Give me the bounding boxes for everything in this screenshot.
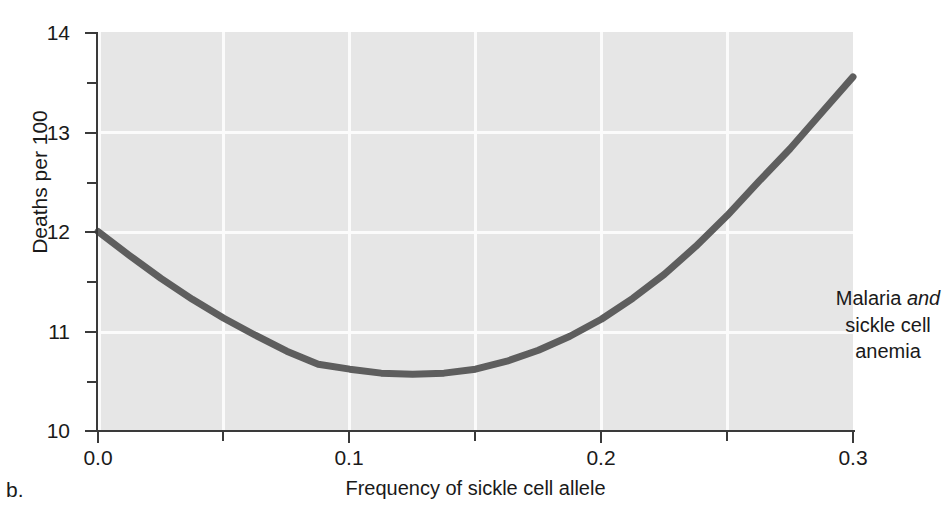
y-axis-line [96,32,98,432]
x-tick-0.0 [97,432,99,443]
x-tick-0.25 [726,432,728,441]
x-tick-0.3 [852,432,854,443]
x-axis-title: Frequency of sickle cell allele [98,477,853,500]
y-tick-13.5 [87,82,96,84]
y-tick-14 [85,32,96,34]
figure-letter: b. [6,478,24,502]
y-tick-11 [85,331,96,333]
x-ticklabel-0.3: 0.3 [813,447,893,468]
annotation-line2: sickle cell [845,314,931,336]
x-tick-0.1 [348,432,350,443]
y-axis-title: Deaths per 100 [28,62,52,302]
x-ticklabel-0.1: 0.1 [309,447,389,468]
annotation-malaria-sickle-cell: Malaria and sickle cell anemia [798,285,946,365]
x-tick-0.05 [222,432,224,441]
annotation-line1-text: Malaria [836,287,907,309]
y-tick-10.5 [87,381,96,383]
y-tick-12 [85,231,96,233]
y-tick-12.5 [87,182,96,184]
plot-area: Malaria and sickle cell anemia [98,32,853,431]
x-tick-0.2 [600,432,602,443]
y-tick-10 [85,430,96,432]
x-tick-0.15 [474,432,476,441]
annotation-line3: anemia [855,340,921,362]
annotation-line1-italic: and [907,287,940,309]
y-tick-13 [85,132,96,134]
y-axis-title-wrap: Deaths per 100 [0,0,80,515]
y-tick-11.5 [87,281,96,283]
data-curve [98,32,853,431]
x-ticklabel-0.2: 0.2 [561,447,641,468]
